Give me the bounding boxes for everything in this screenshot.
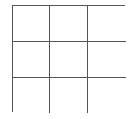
cell-2-0[interactable]: [13, 78, 50, 113]
cell-1-2[interactable]: [88, 42, 126, 78]
game-board: [12, 5, 125, 112]
cell-1-1[interactable]: [50, 42, 88, 78]
cell-2-2[interactable]: [88, 78, 126, 113]
cell-2-1[interactable]: [50, 78, 88, 113]
cell-0-1[interactable]: [50, 6, 88, 42]
cell-0-0[interactable]: [13, 6, 50, 42]
cell-0-2[interactable]: [88, 6, 126, 42]
cell-1-0[interactable]: [13, 42, 50, 78]
